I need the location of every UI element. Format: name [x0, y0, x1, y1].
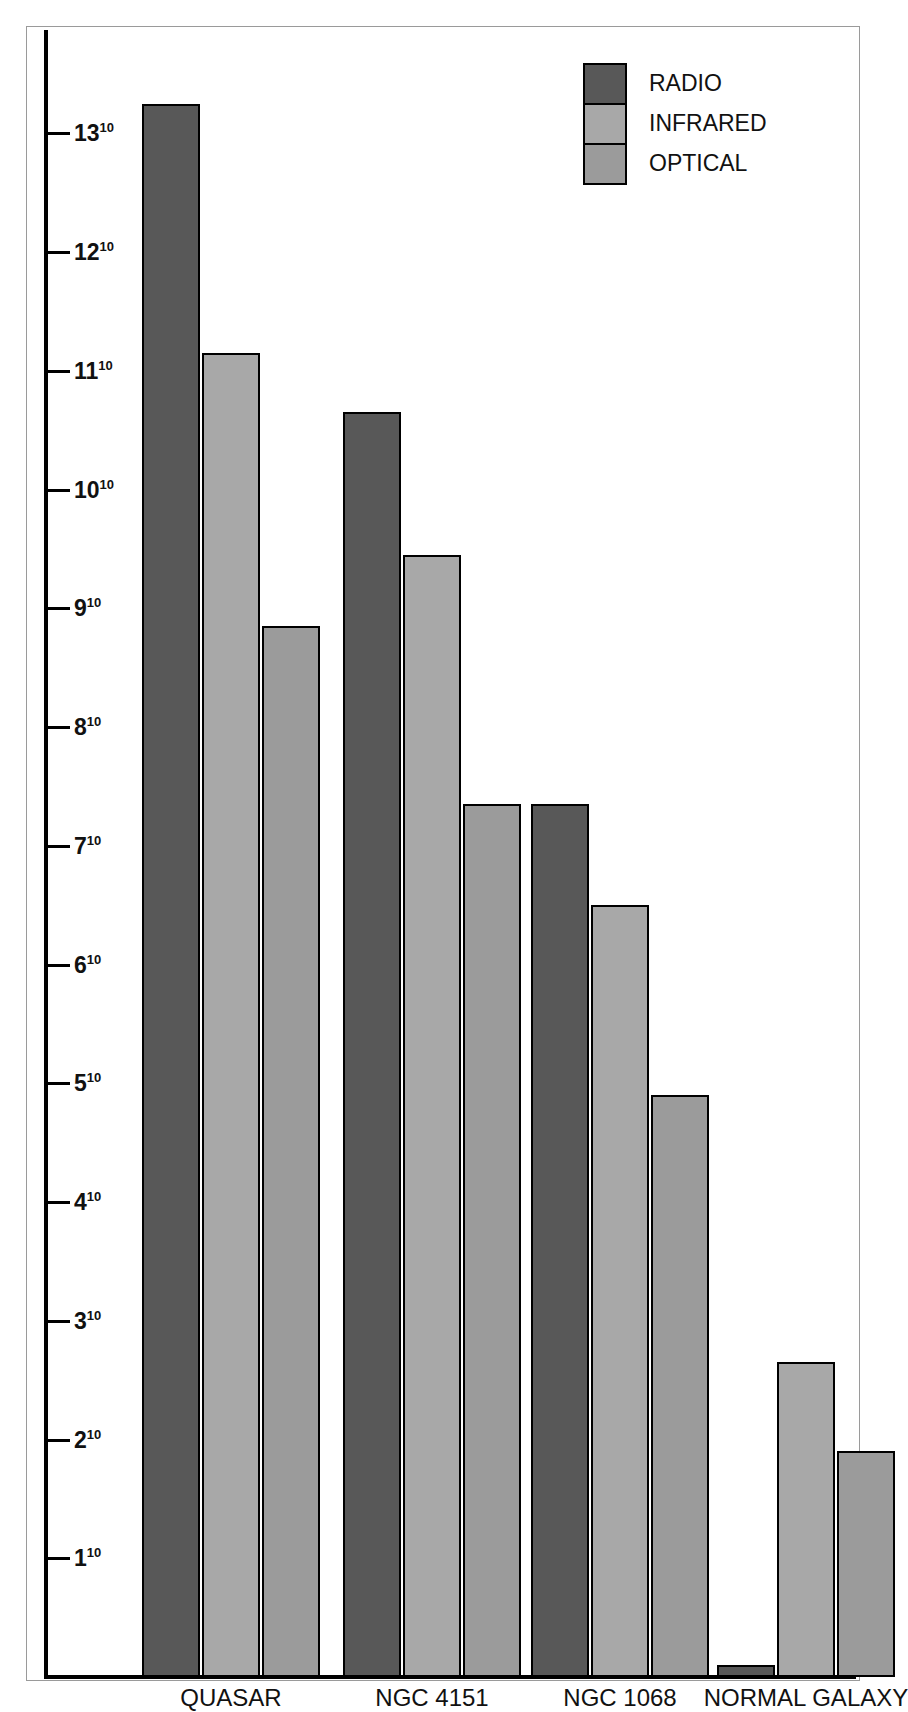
plot-area — [48, 30, 856, 1677]
bar-infrared-0 — [202, 353, 260, 1677]
bar-optical-2 — [651, 1095, 709, 1677]
legend-label-infrared: INFRARED — [649, 103, 767, 143]
legend-swatch-infrared — [585, 103, 625, 143]
bar-optical-3 — [837, 1451, 895, 1677]
legend: RADIOINFRAREDOPTICAL — [583, 63, 767, 185]
bar-infrared-3 — [777, 1362, 835, 1677]
bar-infrared-2 — [591, 905, 649, 1677]
legend-swatch-radio — [585, 65, 625, 103]
bar-radio-2 — [531, 804, 589, 1677]
bar-optical-0 — [262, 626, 320, 1677]
legend-swatches — [583, 63, 627, 185]
bar-radio-3 — [717, 1665, 775, 1677]
x-category-label-1: NGC 4151 — [375, 1684, 488, 1712]
x-category-label-3: NORMAL GALAXY — [704, 1684, 908, 1712]
x-category-label-0: QUASAR — [180, 1684, 281, 1712]
legend-label-optical: OPTICAL — [649, 143, 767, 183]
bar-infrared-1 — [403, 555, 461, 1677]
bar-radio-0 — [142, 104, 200, 1677]
x-category-label-2: NGC 1068 — [563, 1684, 676, 1712]
bar-radio-1 — [343, 412, 401, 1677]
legend-label-radio: RADIO — [649, 63, 767, 103]
bar-optical-1 — [463, 804, 521, 1677]
legend-labels: RADIOINFRAREDOPTICAL — [649, 63, 767, 183]
legend-swatch-optical — [585, 143, 625, 183]
